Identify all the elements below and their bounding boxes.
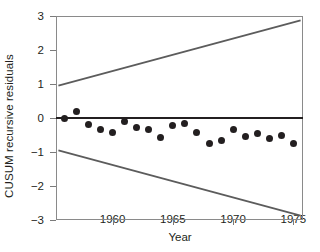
data-point xyxy=(97,126,104,133)
boundary-lines-group xyxy=(56,16,303,220)
data-point xyxy=(206,140,213,147)
data-point xyxy=(61,115,68,122)
data-point xyxy=(85,121,92,128)
x-tick-mark xyxy=(173,220,174,225)
x-tick-mark xyxy=(293,220,294,225)
x-tick-mark xyxy=(233,220,234,225)
y-axis-title: CUSUM recursive residuals xyxy=(0,0,18,252)
y-tick-label: −1 xyxy=(31,146,44,158)
data-point xyxy=(73,108,80,115)
y-tick-mark xyxy=(50,220,56,221)
data-point xyxy=(218,137,225,144)
x-tick-mark xyxy=(113,220,114,225)
data-point xyxy=(230,126,237,133)
lower-critical-boundary-line xyxy=(58,150,300,215)
data-point xyxy=(242,133,249,140)
y-tick-label: −2 xyxy=(31,180,44,192)
y-tick-label: 0 xyxy=(38,112,44,124)
cusum-recursive-residuals-chart: CUSUM recursive residuals Year 3210−1−2−… xyxy=(0,0,320,252)
plot-area xyxy=(56,16,303,220)
x-axis-title: Year xyxy=(56,231,304,243)
y-tick-label: 1 xyxy=(38,78,44,90)
data-point xyxy=(133,124,140,131)
data-point xyxy=(266,135,273,142)
y-tick-label: 3 xyxy=(38,10,44,22)
y-tick-label: 2 xyxy=(38,44,44,56)
data-point xyxy=(278,132,285,139)
upper-critical-boundary-line xyxy=(58,20,300,85)
y-tick-label: −3 xyxy=(31,214,44,226)
